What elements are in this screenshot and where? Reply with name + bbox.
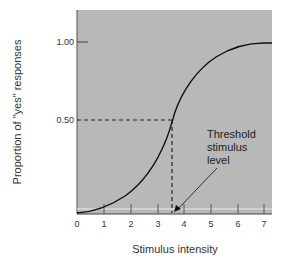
x-tick-label: 1 [101,219,106,229]
x-tick-label: 3 [155,219,160,229]
x-tick-label: 0 [74,219,79,229]
x-tick-label: 2 [128,219,133,229]
y-tick-label: 0.50 [56,115,74,125]
y-axis-title: Proportion of "yes" responses [11,39,23,184]
annotation-line-2: stimulus [207,141,248,153]
x-tick-label: 4 [181,219,186,229]
psychometric-chart: 0 1 2 3 4 5 6 7 1.00 0.50 Threshold stim… [0,0,287,265]
x-tick-label: 5 [208,219,213,229]
x-tick-label: 7 [261,219,266,229]
annotation-line-1: Threshold [207,128,256,140]
x-tick-label: 6 [235,219,240,229]
annotation-line-3: level [207,154,230,166]
y-tick-label: 1.00 [56,37,74,47]
x-axis-title: Stimulus intensity [132,243,218,255]
